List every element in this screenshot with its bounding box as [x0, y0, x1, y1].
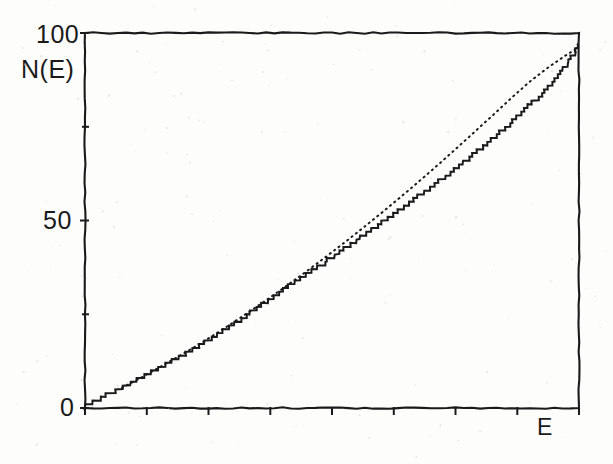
- spectral-staircase-figure: [0, 0, 613, 464]
- weyl-mean-curve: [122, 47, 579, 388]
- plot-frame: [84, 32, 579, 408]
- y-tick-label-100: 100: [36, 20, 79, 49]
- y-axis-title: N(E): [21, 55, 74, 84]
- y-tick-label-0: 0: [60, 393, 74, 422]
- x-axis-title: E: [537, 414, 553, 441]
- axis-frame: [84, 32, 579, 408]
- staircase-curve: [85, 44, 579, 408]
- y-tick-label-50: 50: [43, 206, 72, 235]
